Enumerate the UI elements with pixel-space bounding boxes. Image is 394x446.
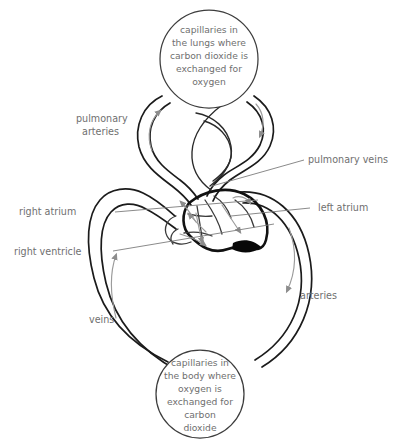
lung-text-line-4: exchanged for [176,63,242,74]
pulmonary-crossover-vessels [192,105,232,190]
body-text-line-3: oxygen is [178,383,222,394]
label-left-atrium: left atrium [318,202,368,213]
lung-text-line-3: carbon dioxide is [170,50,248,61]
flow-arrow-arteries [287,228,294,291]
diagram-canvas: capillaries in the lungs where carbon di… [0,0,394,446]
flow-arrow-heart-5 [222,205,240,232]
label-right-ventricle: right ventricle [14,246,82,257]
lung-text-line-5: oxygen [192,76,226,87]
label-pulmonary-arteries-line-2: arteries [82,126,119,137]
label-right-atrium: right atrium [19,206,76,217]
label-arteries: arteries [300,290,337,301]
systemic-veins-vessel [88,189,178,371]
leader-left-atrium [231,208,310,216]
label-pulmonary-veins: pulmonary veins [308,154,388,165]
leader-right-atrium [115,200,258,212]
circulation-diagram: capillaries in the lungs where carbon di… [0,0,394,446]
pulmonary-arteries-vessel [138,96,198,205]
label-pulmonary-arteries-line-1: pulmonary [76,113,128,124]
body-text-line-6: dioxide [183,422,217,433]
pulmonary-veins-vessel [207,96,273,201]
heart-outline [165,190,267,253]
body-text-line-4: exchanged for [167,396,233,407]
body-text-line-5: carbon [184,409,216,420]
body-text-line-2: the body where [164,370,236,381]
lung-text-line-2: the lungs where [172,37,246,48]
label-veins: veins [89,314,114,325]
body-text-line-1: capillaries in [171,357,229,368]
lung-text-line-1: capillaries in [180,24,238,35]
flow-arrows [112,104,295,318]
